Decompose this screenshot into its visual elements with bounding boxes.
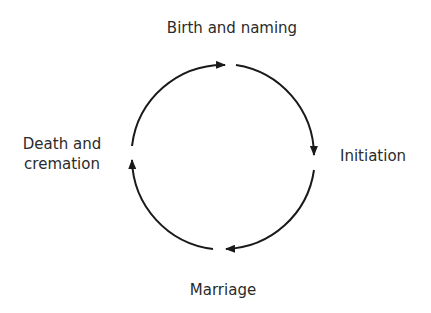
life-cycle-diagram: Birth and naming Initiation Marriage Dea…: [0, 0, 431, 313]
arrow-marriage-to-death: [132, 160, 213, 249]
arrow-birth-to-initiation: [236, 65, 314, 155]
stage-label-line-1: Death and: [14, 134, 110, 154]
stage-label-initiation: Initiation: [340, 146, 406, 166]
arrow-initiation-to-marriage: [226, 170, 314, 249]
arrow-death-to-birth: [132, 65, 225, 146]
stage-label-line-2: cremation: [14, 154, 110, 174]
stage-label-death-and-cremation: Death and cremation: [14, 134, 110, 174]
stage-label-marriage: Marriage: [0, 280, 431, 300]
stage-label-birth-and-naming: Birth and naming: [0, 18, 431, 38]
